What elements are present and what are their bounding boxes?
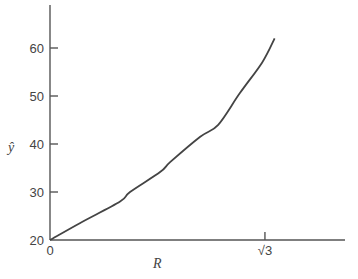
x-tick-label: √3 <box>258 243 272 258</box>
data-curve <box>50 38 275 240</box>
x-axis-ticks: 0√3 <box>46 232 272 258</box>
y-tick-label: 20 <box>30 233 44 248</box>
y-axis-ticks: 2030405060 <box>30 41 58 248</box>
x-tick-label: 0 <box>46 243 53 258</box>
y-tick-label: 30 <box>30 185 44 200</box>
y-tick-label: 60 <box>30 41 44 56</box>
y-tick-label: 40 <box>30 137 44 152</box>
line-chart: 2030405060 0√3 R ŷ <box>0 0 358 279</box>
plot-area: 2030405060 0√3 <box>30 5 345 258</box>
y-axis-label: ŷ <box>6 140 15 155</box>
x-axis-label: R <box>152 256 162 271</box>
y-tick-label: 50 <box>30 89 44 104</box>
